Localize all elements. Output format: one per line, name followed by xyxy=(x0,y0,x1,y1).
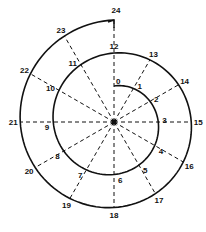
point-label-20: 20 xyxy=(25,167,34,176)
radial-line-1 xyxy=(114,60,150,122)
point-label-24: 24 xyxy=(112,6,121,15)
radial-dashed-lines xyxy=(20,20,191,208)
center-point xyxy=(112,120,117,125)
radial-line-2 xyxy=(114,85,179,122)
point-label-6: 6 xyxy=(118,176,123,185)
spiral-end-marker xyxy=(108,20,114,28)
point-label-7: 7 xyxy=(78,171,83,180)
spiral-diagram: 0123456789101112131415161718192021222324 xyxy=(0,0,206,232)
point-labels: 0123456789101112131415161718192021222324 xyxy=(9,6,203,220)
spiral-curve xyxy=(20,20,191,208)
radial-line-11 xyxy=(64,36,114,122)
point-label-5: 5 xyxy=(143,166,148,175)
point-label-22: 22 xyxy=(20,66,29,75)
radial-line-10 xyxy=(30,74,114,122)
point-label-8: 8 xyxy=(55,152,60,161)
point-label-3: 3 xyxy=(162,116,167,125)
point-label-15: 15 xyxy=(194,118,203,127)
point-label-11: 11 xyxy=(68,59,77,68)
point-label-23: 23 xyxy=(56,26,65,35)
point-label-1: 1 xyxy=(137,82,142,91)
point-label-14: 14 xyxy=(180,77,189,86)
point-label-17: 17 xyxy=(154,196,163,205)
point-label-12: 12 xyxy=(110,42,119,51)
radial-line-7 xyxy=(70,122,114,198)
point-label-2: 2 xyxy=(154,95,159,104)
point-label-21: 21 xyxy=(9,118,18,127)
point-label-4: 4 xyxy=(159,147,164,156)
point-label-16: 16 xyxy=(185,162,194,171)
point-label-10: 10 xyxy=(46,84,55,93)
point-label-18: 18 xyxy=(110,211,119,220)
point-label-19: 19 xyxy=(62,201,71,210)
point-label-9: 9 xyxy=(45,123,50,132)
point-label-13: 13 xyxy=(149,50,158,59)
point-label-0: 0 xyxy=(116,77,121,86)
